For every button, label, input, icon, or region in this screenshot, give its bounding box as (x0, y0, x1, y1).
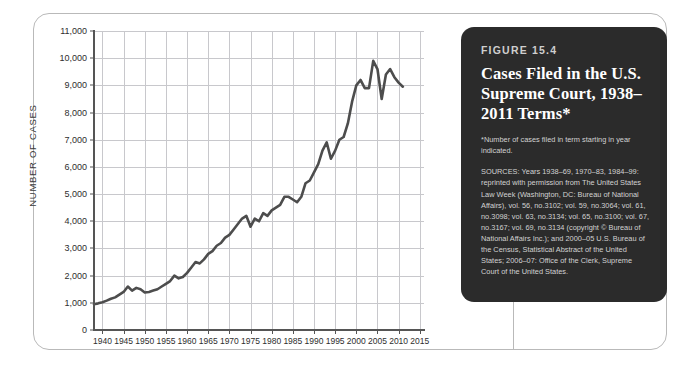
figure-sources: SOURCES: Years 1938–69, 1970–83, 1984–99… (481, 166, 650, 277)
x-axis-tick-label: 1985 (283, 336, 302, 346)
figure-page: NUMBER OF CASES 01,0002,0003,0004,0005,0… (0, 0, 700, 377)
x-axis-tick-label: 1945 (114, 336, 133, 346)
x-axis-tick-label: 2010 (389, 336, 408, 346)
x-axis-tick-label: 1960 (178, 336, 197, 346)
y-axis-tick-label: 4,000 (64, 216, 87, 226)
y-axis-tick-label: 0 (82, 325, 87, 335)
y-axis-tick-label: 6,000 (64, 162, 87, 172)
figure-footnote: *Number of cases filed in term starting … (481, 135, 650, 157)
figure-caption-box: FIGURE 15.4 Cases Filed in the U.S. Supr… (461, 27, 667, 302)
x-axis-tick-label: 1970 (220, 336, 239, 346)
y-axis-tick-label: 9,000 (64, 80, 87, 90)
x-axis-tick-label: 1965 (199, 336, 218, 346)
x-axis-tick-label: 1975 (241, 336, 260, 346)
x-axis-tick-label: 1995 (326, 336, 345, 346)
x-axis-line (93, 329, 425, 331)
figure-title: Cases Filed in the U.S. Supreme Court, 1… (481, 64, 650, 124)
chart-area: NUMBER OF CASES 01,0002,0003,0004,0005,0… (0, 0, 460, 377)
figure-number-label: FIGURE 15.4 (481, 44, 650, 56)
series-line-cases-filed (94, 31, 424, 330)
x-axis-tick-label: 1990 (305, 336, 324, 346)
y-axis-line (93, 30, 95, 331)
y-axis-tick-label: 7,000 (64, 135, 87, 145)
x-axis-tick-label: 2000 (347, 336, 366, 346)
y-axis-tick-label: 8,000 (64, 108, 87, 118)
plot-region: 01,0002,0003,0004,0005,0006,0007,0008,00… (94, 31, 424, 330)
x-axis-tick-label: 1955 (156, 336, 175, 346)
y-axis-tick-label: 3,000 (64, 243, 87, 253)
x-axis-tick-label: 1980 (262, 336, 281, 346)
y-axis-tick-label: 1,000 (64, 298, 87, 308)
y-axis-tick-label: 11,000 (60, 26, 87, 36)
y-axis-tick-label: 2,000 (64, 271, 87, 281)
x-axis-tick-label: 1950 (135, 336, 154, 346)
x-axis-tick-label: 2015 (410, 336, 429, 346)
caption-connector-line (513, 302, 514, 350)
x-axis-tick-label: 2005 (368, 336, 387, 346)
y-axis-title: NUMBER OF CASES (27, 76, 38, 236)
x-axis-tick-label: 1940 (93, 336, 112, 346)
y-axis-tick-label: 10,000 (59, 53, 87, 63)
y-axis-tick-label: 5,000 (64, 189, 87, 199)
